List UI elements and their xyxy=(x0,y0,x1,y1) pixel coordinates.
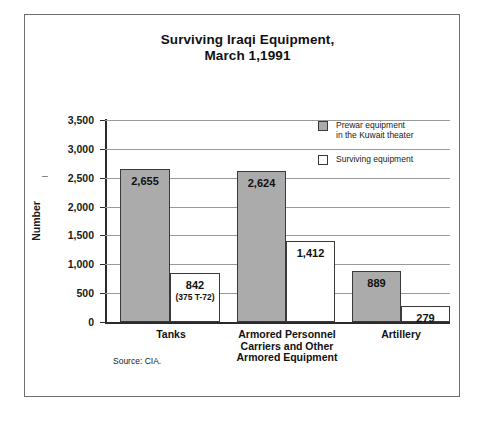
bar-value-label: 889 xyxy=(353,277,400,289)
y-tick-label: 3,000 xyxy=(42,144,94,154)
y-tick-label: 3,500 xyxy=(42,115,94,125)
category-label-line: Armored Equipment xyxy=(217,352,357,364)
bar[interactable]: 2,655 xyxy=(120,169,170,322)
bar[interactable]: 279 xyxy=(401,306,450,322)
bar[interactable]: 889 xyxy=(352,271,401,322)
bar[interactable]: 2,624 xyxy=(237,171,286,322)
y-axis-title: Number xyxy=(30,181,42,261)
y-tick-label: 0 xyxy=(42,317,94,327)
legend-label-line-1: Prewar equipment xyxy=(336,120,405,130)
y-tick-label: 500 xyxy=(42,288,94,298)
legend-label-line-2: in the Kuwait theater xyxy=(336,130,414,140)
y-tick-label: 2,500 xyxy=(42,173,94,183)
source-note: Source: CIA. xyxy=(113,356,161,366)
chart-title-line-2: March 1,1991 xyxy=(0,48,495,64)
gray-square-icon xyxy=(318,121,328,131)
bar-value-label: 2,655 xyxy=(121,175,169,187)
white-square-icon xyxy=(318,155,328,165)
bar-value-label: 279 xyxy=(402,312,449,324)
legend-item[interactable]: Surviving equipment xyxy=(318,154,448,165)
x-axis-category-label: Artillery xyxy=(331,329,471,341)
legend-item-label: Prewar equipmentin the Kuwait theater xyxy=(336,120,414,140)
y-tick-label: 2,000 xyxy=(42,202,94,212)
legend-item[interactable]: Prewar equipmentin the Kuwait theater xyxy=(318,120,448,140)
legend-label-line-1: Surviving equipment xyxy=(336,154,413,164)
category-label-line: Artillery xyxy=(331,329,471,341)
chart-title-line-1: Surviving Iraqi Equipment, xyxy=(161,32,335,47)
y-tick-label: 1,500 xyxy=(42,230,94,240)
bar[interactable]: 1,412 xyxy=(286,241,335,322)
chart-title: Surviving Iraqi Equipment, March 1,1991 xyxy=(0,32,495,64)
bar-value-label: 1,412 xyxy=(287,247,334,259)
bar-value-label: 842 xyxy=(171,279,219,291)
legend: Prewar equipmentin the Kuwait theaterSur… xyxy=(318,120,448,179)
y-tick-label: 1,000 xyxy=(42,259,94,269)
legend-item-label: Surviving equipment xyxy=(336,154,413,164)
bar-value-sublabel: (375 T-72) xyxy=(171,292,219,302)
bar[interactable]: 842(375 T-72) xyxy=(170,273,220,322)
bar-value-label: 2,624 xyxy=(238,177,285,189)
x-axis-baseline xyxy=(105,322,450,324)
